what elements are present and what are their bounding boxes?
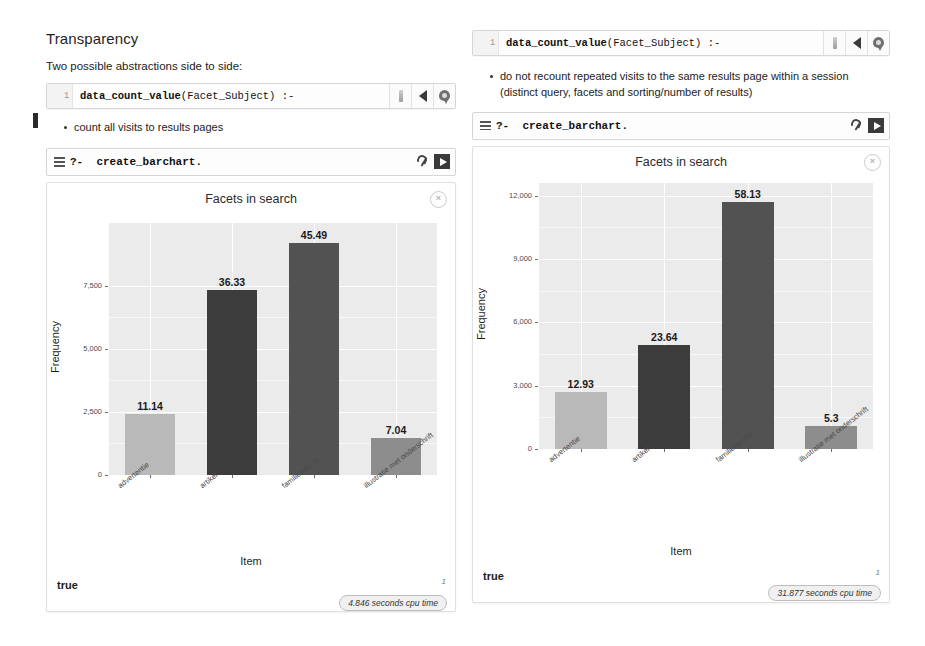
right-query-prompt: ?- [496,120,509,132]
right-x-axis-label: Item [473,545,889,557]
bar [722,202,774,449]
right-query-tools [845,118,889,133]
left-code-text[interactable]: data_count_value(Facet_Subject) :- [73,84,389,108]
x-tick-mark [150,475,151,478]
x-tick-mark [664,449,665,452]
left-code-editor[interactable]: 1 data_count_value(Facet_Subject) :- [46,83,456,109]
hamburger-icon[interactable] [473,121,495,130]
left-output-card: Facets in search × 11.14advertentie36.33… [46,182,456,612]
gridline-horizontal [109,349,437,350]
y-tick-label: 0 [473,444,532,453]
y-tick-label: 2,500 [47,407,102,416]
bar [207,290,258,475]
slider-icon[interactable] [823,31,845,55]
y-tick-mark [105,475,108,476]
bar-value-label: 58.13 [708,188,788,200]
right-page-number: 1 [876,568,880,577]
gridline-horizontal [539,449,873,450]
right-code-text[interactable]: data_count_value(Facet_Subject) :- [499,31,823,55]
left-code-toolbar [389,84,455,108]
y-tick-mark [105,412,108,413]
left-chart-title: Facets in search [47,192,455,206]
y-tick-label: 0 [47,470,102,479]
play-icon[interactable] [434,154,450,169]
gridline-horizontal-minor [109,380,437,381]
y-tick-mark [535,322,538,323]
bar-value-label: 45.49 [274,229,354,241]
hamburger-icon[interactable] [47,157,69,166]
gridline-horizontal [539,196,873,197]
y-tick-mark [105,349,108,350]
gridline-horizontal [109,475,437,476]
y-axis-label: Frequency [49,317,61,377]
left-column: Transparency Two possible abstractions s… [46,30,456,612]
bar-value-label: 23.64 [624,331,704,343]
right-cpu-time-badge: 31.877 seconds cpu time [768,585,881,602]
left-code-line-number: 1 [47,84,73,108]
x-tick-mark [232,475,233,478]
y-tick-mark [105,286,108,287]
left-query-goal: create_barchart. [96,156,202,168]
y-tick-mark [535,386,538,387]
left-query-bar[interactable]: ?- create_barchart. [46,148,456,176]
right-output-card: Facets in search × 12.93advertentie23.64… [472,146,890,603]
wrench-icon[interactable] [850,119,863,132]
left-cpu-time-badge: 4.846 seconds cpu time [339,595,447,612]
play-icon[interactable] [868,118,884,133]
y-tick-label: 3,000 [473,381,532,390]
y-tick-label: 7,500 [47,281,102,290]
left-query-text[interactable]: ?- create_barchart. [69,156,411,168]
right-code-toolbar [823,31,889,55]
gridline-horizontal-minor [109,317,437,318]
location-pin-icon[interactable] [433,84,455,108]
left-result-true: true [57,579,78,591]
left-x-axis-label: Item [47,555,455,567]
right-bullet-item: do not recount repeated visits to the sa… [490,69,860,101]
gridline-horizontal [539,259,873,260]
gridline-vertical [831,183,832,449]
right-query-bar[interactable]: ?- create_barchart. [472,112,890,140]
page-title: Transparency [46,30,456,47]
right-result-true: true [483,570,504,582]
gridline-horizontal [109,286,437,287]
slide-subtitle: Two possible abstractions side to side: [46,60,456,72]
y-tick-label: 12,000 [473,191,532,200]
slide-page: Transparency Two possible abstractions s… [0,0,925,646]
y-axis-label: Frequency [475,284,487,344]
bar-value-label: 11.14 [110,400,190,412]
right-chart-plot: 12.93advertentie23.64artikel58.13familie… [473,167,889,517]
right-code-editor[interactable]: 1 data_count_value(Facet_Subject) :- [472,30,890,56]
x-tick-mark [314,475,315,478]
gridline-horizontal-minor [539,227,873,228]
triangle-left-icon[interactable] [845,31,867,55]
left-chart-plot: 11.14advertentie36.33artikel45.49familie… [47,205,455,535]
left-margin-marker [33,113,38,128]
bar-value-label: 36.33 [192,276,272,288]
triangle-left-icon[interactable] [411,84,433,108]
bar [638,345,690,448]
left-code-args: (Facet_Subject) :- [181,90,294,102]
y-tick-label: 9,000 [473,254,532,263]
bar-value-label: 12.93 [541,378,621,390]
gridline-vertical [396,223,397,475]
right-query-goal: create_barchart. [522,120,628,132]
right-column: 1 data_count_value(Facet_Subject) :- do … [472,30,890,603]
location-pin-icon[interactable] [867,31,889,55]
y-tick-mark [535,196,538,197]
gridline-horizontal [539,322,873,323]
bullet-dot-icon [64,126,67,129]
right-query-text[interactable]: ?- create_barchart. [495,120,845,132]
x-tick-mark [831,449,832,452]
right-bullet-text: do not recount repeated visits to the sa… [500,69,860,101]
slider-icon[interactable] [389,84,411,108]
right-code-predicate: data_count_value [506,37,607,49]
wrench-icon[interactable] [416,155,429,168]
gridline-horizontal-minor [539,354,873,355]
left-bullet-text: count all visits to results pages [74,120,223,136]
y-tick-mark [535,449,538,450]
left-page-number: 1 [442,577,446,586]
left-bullet-item: count all visits to results pages [64,120,456,136]
y-tick-mark [535,259,538,260]
bar [289,243,340,475]
right-code-args: (Facet_Subject) :- [607,37,720,49]
